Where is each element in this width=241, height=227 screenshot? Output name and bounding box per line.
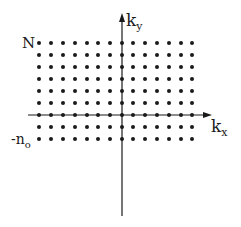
lattice-point — [143, 53, 147, 57]
lattice-point — [179, 137, 183, 141]
lattice-point — [61, 41, 65, 45]
lattice-point — [37, 101, 41, 105]
lattice-point — [179, 125, 183, 129]
lattice-point — [85, 77, 89, 81]
lattice-point — [49, 101, 53, 105]
bottom-row-label: -no — [11, 132, 31, 150]
lattice-point — [143, 101, 147, 105]
lattice-point — [131, 89, 135, 93]
lattice-point — [85, 137, 89, 141]
top-row-label: N — [22, 36, 35, 51]
lattice-point — [49, 125, 53, 129]
lattice-point — [131, 125, 135, 129]
lattice-point — [49, 53, 53, 57]
lattice-point — [73, 77, 77, 81]
lattice-point — [155, 53, 159, 57]
lattice-point — [167, 77, 171, 81]
lattice-point — [96, 41, 100, 45]
lattice-point — [108, 65, 112, 69]
lattice-point — [108, 137, 112, 141]
lattice-point — [190, 41, 194, 45]
lattice-point — [155, 125, 159, 129]
lattice-point — [143, 137, 147, 141]
x-axis-label: kx — [211, 118, 228, 138]
y-axis-label: ky — [126, 12, 143, 32]
lattice-point — [131, 65, 135, 69]
lattice-point — [96, 53, 100, 57]
lattice-point — [49, 77, 53, 81]
lattice-point — [96, 125, 100, 129]
lattice-point — [155, 65, 159, 69]
lattice-point — [179, 41, 183, 45]
lattice-point — [155, 137, 159, 141]
lattice-point — [61, 65, 65, 69]
lattice-point — [190, 77, 194, 81]
lattice-point — [108, 53, 112, 57]
lattice-point — [85, 41, 89, 45]
lattice-point — [96, 101, 100, 105]
lattice-point — [108, 77, 112, 81]
lattice-point — [143, 65, 147, 69]
lattice-point — [37, 77, 41, 81]
lattice-point — [61, 77, 65, 81]
lattice-point — [179, 101, 183, 105]
lattice-point — [96, 137, 100, 141]
lattice-point — [131, 41, 135, 45]
lattice-point — [85, 125, 89, 129]
lattice-point — [108, 101, 112, 105]
lattice-point — [131, 101, 135, 105]
lattice-point — [96, 77, 100, 81]
lattice-point — [108, 89, 112, 93]
y-axis-label-main: k — [126, 10, 136, 30]
lattice-point — [190, 125, 194, 129]
lattice-point — [190, 101, 194, 105]
lattice-point — [61, 101, 65, 105]
lattice-point — [73, 125, 77, 129]
lattice-point — [155, 77, 159, 81]
lattice-point — [37, 89, 41, 93]
y-axis-arrowhead — [119, 13, 125, 22]
lattice-point — [179, 77, 183, 81]
lattice-points — [37, 41, 194, 141]
lattice-point — [73, 101, 77, 105]
lattice-point — [167, 53, 171, 57]
lattice-point — [96, 89, 100, 93]
lattice-point — [143, 77, 147, 81]
lattice-point — [179, 89, 183, 93]
lattice-point — [37, 137, 41, 141]
lattice-point — [61, 125, 65, 129]
lattice-point — [143, 125, 147, 129]
lattice-diagram — [0, 0, 241, 227]
lattice-point — [73, 137, 77, 141]
bottom-row-label-sub: o — [25, 139, 31, 150]
lattice-point — [167, 41, 171, 45]
lattice-point — [155, 41, 159, 45]
lattice-point — [73, 53, 77, 57]
lattice-point — [49, 89, 53, 93]
lattice-point — [190, 65, 194, 69]
lattice-point — [61, 89, 65, 93]
lattice-point — [167, 137, 171, 141]
lattice-point — [61, 137, 65, 141]
lattice-point — [131, 137, 135, 141]
lattice-point — [131, 53, 135, 57]
lattice-point — [73, 41, 77, 45]
y-axis-label-sub: y — [136, 20, 142, 33]
lattice-point — [167, 101, 171, 105]
lattice-point — [155, 101, 159, 105]
lattice-point — [143, 89, 147, 93]
lattice-point — [37, 65, 41, 69]
lattice-point — [96, 65, 100, 69]
lattice-point — [143, 41, 147, 45]
x-axis-label-sub: x — [221, 126, 227, 139]
lattice-point — [49, 65, 53, 69]
lattice-point — [167, 65, 171, 69]
lattice-point — [37, 125, 41, 129]
lattice-point — [155, 89, 159, 93]
bottom-row-label-main: -n — [11, 131, 25, 147]
lattice-point — [131, 77, 135, 81]
lattice-point — [167, 125, 171, 129]
lattice-point — [190, 89, 194, 93]
lattice-point — [108, 125, 112, 129]
lattice-point — [37, 41, 41, 45]
